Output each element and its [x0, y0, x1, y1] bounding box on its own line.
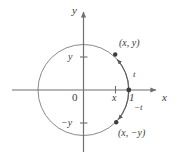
- y-axis-label: y: [72, 5, 77, 16]
- upper-point-label: (x, y): [119, 38, 140, 48]
- origin-label: 0: [72, 92, 78, 103]
- y-negative-tick-label: −y: [61, 118, 72, 128]
- arc-negative-path: [118, 91, 128, 120]
- figure-canvas: [0, 0, 179, 166]
- lower-point-label: (x, −y): [118, 128, 145, 138]
- y-positive-tick-label: y: [68, 52, 72, 62]
- lower-point-marker: [114, 120, 118, 124]
- x-tick-label: x: [112, 93, 116, 103]
- unit-circle-figure: y x 0 x 1 y −y (x, y) (x, −y) t −t: [0, 0, 179, 166]
- x-axis-label: x: [162, 92, 167, 103]
- upper-point-marker: [113, 52, 117, 56]
- arc-positive-label: t: [133, 70, 136, 79]
- arc-positive-path: [117, 60, 128, 90]
- arc-negative-label: −t: [134, 103, 143, 112]
